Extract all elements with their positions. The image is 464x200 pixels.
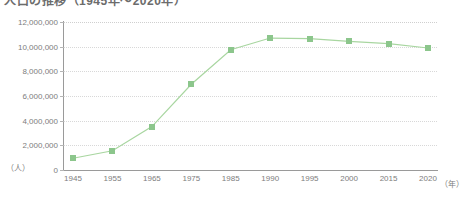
y-tick-label: 4,000,000 <box>22 116 58 125</box>
y-tick-label: 2,000,000 <box>22 141 58 150</box>
data-point-marker <box>307 36 313 42</box>
x-tick-label: 1955 <box>104 174 122 183</box>
y-tick-label: 6,000,000 <box>22 92 58 101</box>
y-axis-labels: 02,000,0004,000,0006,000,0008,000,00010,… <box>0 22 58 170</box>
data-point-marker <box>228 47 234 53</box>
x-tick-label: 1995 <box>301 174 319 183</box>
y-tick-mark <box>60 170 64 171</box>
chart-title-clipped: 人口の推移（1945年～2020年） <box>0 0 451 7</box>
chart-title: 人口の推移（1945年～2020年） <box>4 0 186 7</box>
series-line <box>64 22 437 170</box>
x-tick-label: 2020 <box>419 174 437 183</box>
x-axis-unit-label: （年） <box>440 178 464 189</box>
x-axis-line <box>63 170 438 171</box>
y-tick-label: 8,000,000 <box>22 67 58 76</box>
y-axis-unit-label: （人） <box>6 162 30 173</box>
series-polyline <box>73 38 428 158</box>
plot-area <box>64 22 437 170</box>
data-point-marker <box>109 148 115 154</box>
x-axis-labels: 1945195519651975198519901995200020152020 <box>0 174 451 188</box>
data-point-marker <box>346 38 352 44</box>
data-point-marker <box>425 45 431 51</box>
data-point-marker <box>188 81 194 87</box>
x-tick-label: 1975 <box>182 174 200 183</box>
x-tick-label: 1965 <box>143 174 161 183</box>
x-tick-label: 1945 <box>64 174 82 183</box>
x-tick-label: 2000 <box>340 174 358 183</box>
x-tick-label: 1985 <box>222 174 240 183</box>
data-point-marker <box>70 155 76 161</box>
y-tick-label: 10,000,000 <box>18 42 58 51</box>
x-tick-label: 1990 <box>261 174 279 183</box>
data-point-marker <box>386 41 392 47</box>
data-point-marker <box>267 35 273 41</box>
data-point-marker <box>149 124 155 130</box>
y-tick-label: 12,000,000 <box>18 18 58 27</box>
x-tick-label: 2015 <box>380 174 398 183</box>
